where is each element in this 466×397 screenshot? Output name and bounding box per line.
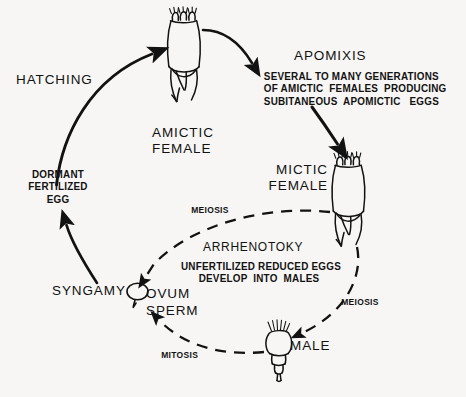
mictic-female-label: MICTIC FEMALE — [258, 162, 328, 194]
meiosis-lower-label: MEIOSIS — [341, 297, 379, 308]
mitosis-label: MITOSIS — [161, 350, 198, 361]
sperm-figure — [133, 300, 136, 307]
apomixis-body: SEVERAL TO MANY GENERATIONS OF AMICTIC F… — [264, 70, 447, 107]
syngamy-arrow — [67, 225, 98, 283]
male-label: MALE — [290, 338, 330, 354]
diagram-canvas: HATCHING AMICTIC FEMALE APOMIXIS SEVERAL… — [0, 0, 466, 397]
dormant-egg-label: DORMANT FERTILIZED EGG — [11, 168, 105, 205]
apomixis-arrow — [203, 30, 252, 63]
sperm-label: SPERM — [146, 303, 199, 319]
meiosis-upper-label: MEIOSIS — [191, 205, 229, 216]
ovum-figure — [127, 283, 148, 299]
male-figure — [266, 320, 292, 382]
hatching-label: HATCHING — [16, 72, 93, 88]
ovum-label: OVUM — [146, 286, 190, 302]
amictic-female-figure — [168, 7, 200, 102]
amictic-female-label: AMICTIC FEMALE — [152, 125, 214, 157]
arrhenotoky-body: UNFERTILIZED REDUCED EGGS DEVELOP INTO M… — [181, 260, 337, 285]
arrhenotoky-heading: ARRHENOTOKY — [203, 240, 303, 254]
mitosis-arrow — [159, 320, 264, 353]
syngamy-label: SYNGAMY — [52, 283, 126, 299]
mictic-female-figure — [332, 152, 364, 246]
apomixis-heading: APOMIXIS — [294, 48, 366, 64]
to-mictic-arrow — [312, 107, 338, 144]
